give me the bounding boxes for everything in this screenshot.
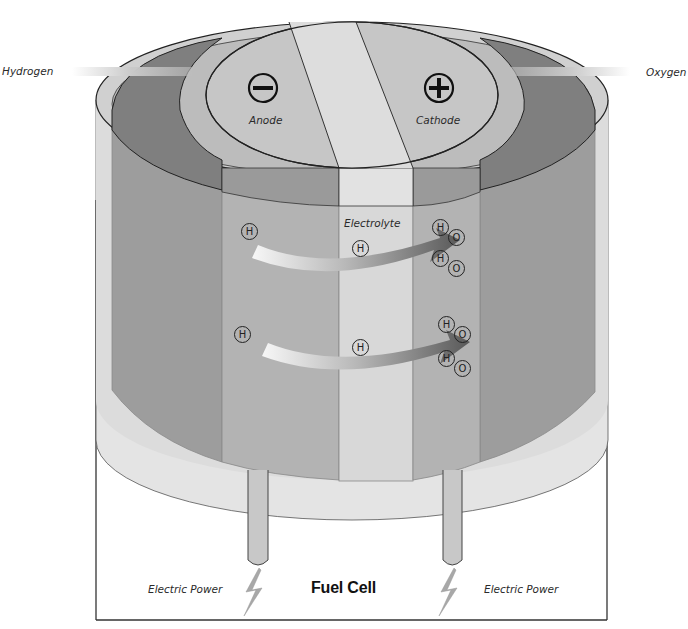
hydrogen-ion: H [352, 339, 369, 356]
water-hydrogen: H [438, 350, 455, 367]
hydrogen-inlet [72, 67, 192, 76]
cathode-label: Cathode [416, 114, 460, 126]
water-oxygen: O [448, 260, 465, 277]
oxygen-inlet [510, 67, 630, 76]
hydrogen-atom: H [234, 326, 251, 343]
fuel-cell-diagram [0, 0, 688, 629]
diagram-title: Fuel Cell [311, 579, 376, 597]
water-oxygen: O [448, 229, 465, 246]
anode-label: Anode [249, 114, 282, 126]
electric-power-left-label: Electric Power [148, 583, 222, 595]
cathode-wire [443, 470, 462, 565]
lightning-bolt-icon [439, 568, 457, 616]
water-oxygen: O [454, 360, 471, 377]
hydrogen-ion: H [352, 240, 369, 257]
hydrogen-atom: H [241, 223, 258, 240]
electric-power-right-label: Electric Power [484, 583, 558, 595]
anode-wire [248, 470, 268, 565]
hydrogen-label: Hydrogen [2, 65, 53, 77]
lightning-bolt-icon [244, 568, 262, 616]
water-hydrogen: H [432, 219, 449, 236]
water-oxygen: O [454, 326, 471, 343]
water-hydrogen: H [438, 316, 455, 333]
plus-icon [425, 74, 453, 102]
water-hydrogen: H [432, 250, 449, 267]
electrolyte-label: Electrolyte [344, 217, 400, 229]
oxygen-label: Oxygen [646, 66, 686, 78]
